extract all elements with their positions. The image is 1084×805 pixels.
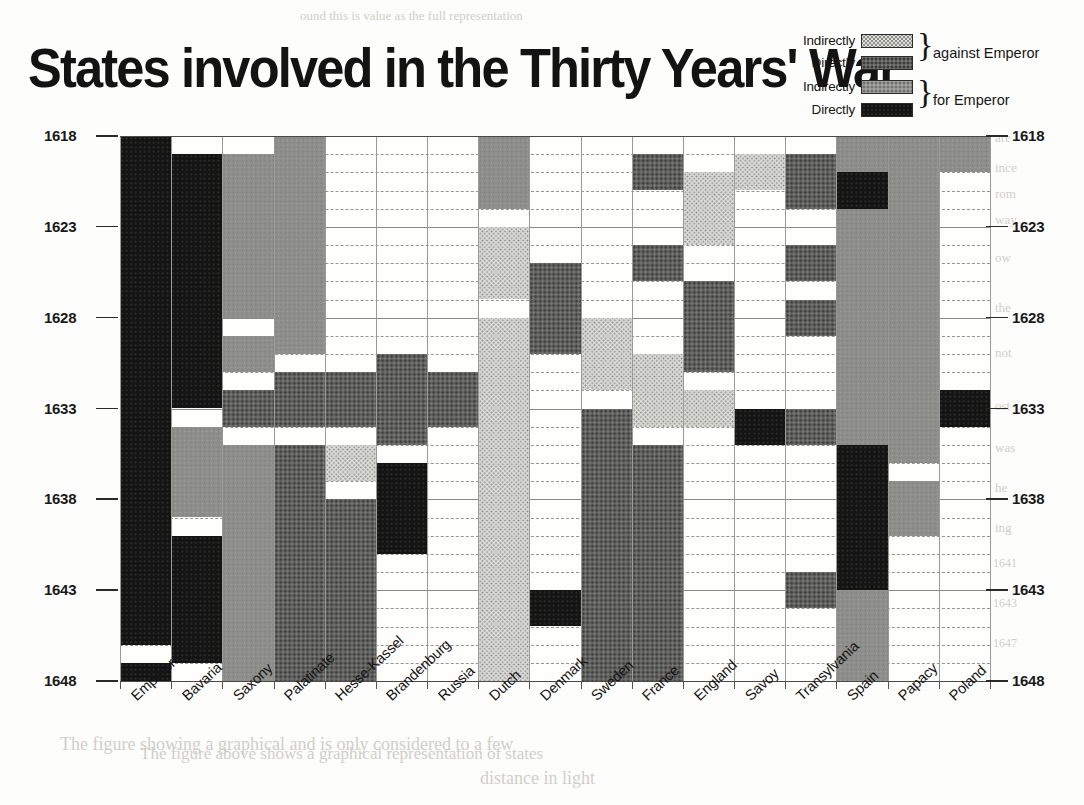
- heatmap-cell: [836, 445, 888, 590]
- legend-swatch-indirectly-for-icon: [861, 80, 913, 94]
- page-title: States involved in the Thirty Years' War: [28, 36, 897, 100]
- y-axis-tick-left: [96, 226, 118, 228]
- heatmap-cell: [683, 172, 735, 245]
- x-axis-tick: [734, 682, 735, 689]
- heatmap-cell: [171, 154, 223, 408]
- heatmap-cell: [785, 245, 837, 281]
- x-axis-tick: [171, 682, 172, 689]
- y-axis-tick-label-left: 1623: [44, 218, 76, 235]
- column-separator: [376, 136, 377, 681]
- column-separator: [274, 136, 275, 681]
- heatmap-cell: [222, 445, 274, 681]
- heatmap-cell: [734, 409, 786, 445]
- legend-swatch-indirectly-against-icon: [861, 34, 913, 48]
- y-axis-tick-label-right: 1643: [1012, 581, 1044, 598]
- column-separator: [325, 136, 326, 681]
- heatmap-cell: [888, 136, 940, 463]
- scan-bleed-text: are: [995, 130, 1011, 146]
- axis-line-top: [120, 136, 990, 137]
- x-axis-tick: [785, 682, 786, 689]
- x-axis-tick: [274, 682, 275, 689]
- heatmap-cell: [529, 263, 581, 354]
- heatmap-cell: [939, 390, 991, 426]
- column-separator: [785, 136, 786, 681]
- scan-bleed-text: he: [995, 480, 1007, 496]
- heatmap-cell: [478, 136, 530, 209]
- scan-bleed-text: 1641: [993, 556, 1017, 571]
- scan-bleed-text: ound this is value as the full represent…: [300, 8, 523, 24]
- column-separator: [478, 136, 479, 681]
- scan-bleed-text: the: [995, 300, 1011, 316]
- y-axis-tick-label-left: 1633: [44, 400, 76, 417]
- heatmap-cell: [785, 409, 837, 445]
- scan-bleed-text: ost: [995, 398, 1010, 414]
- legend-label: Directly: [793, 55, 855, 70]
- y-axis-tick-left: [96, 680, 118, 682]
- column-separator: [683, 136, 684, 681]
- x-axis-tick: [632, 682, 633, 689]
- y-axis-tick-right: [986, 317, 1008, 319]
- heatmap-cell: [785, 300, 837, 336]
- legend-label: Indirectly: [793, 33, 855, 48]
- heatmap-cell: [427, 372, 479, 427]
- y-axis-tick-right: [986, 498, 1008, 500]
- legend-row-indirectly-against: Indirectly: [793, 31, 913, 50]
- scan-bleed-text: ing: [995, 520, 1012, 536]
- legend-group-for-label: for Emperor: [933, 92, 1010, 108]
- column-separator: [888, 136, 889, 681]
- heatmap-cell: [581, 409, 633, 682]
- x-axis-tick: [836, 682, 837, 689]
- column-separator: [632, 136, 633, 681]
- legend-row-directly-for: Directly: [793, 100, 913, 119]
- x-axis-tick: [990, 682, 991, 689]
- brace-for-icon: }: [917, 75, 933, 109]
- scan-bleed-text: distance in light: [480, 768, 595, 789]
- heatmap-cell: [171, 536, 223, 663]
- y-axis-tick-label-right: 1633: [1012, 400, 1044, 417]
- heatmap-cell: [632, 354, 684, 427]
- heatmap-cell: [632, 245, 684, 281]
- scan-bleed-text: rom: [995, 186, 1016, 202]
- scan-bleed-text: 1647: [993, 636, 1017, 651]
- y-axis-tick-label-right: 1618: [1012, 127, 1044, 144]
- heatmap-cell: [683, 390, 735, 426]
- heatmap-cell: [785, 572, 837, 608]
- y-axis-tick-label-left: 1648: [44, 672, 76, 689]
- column-separator: [427, 136, 428, 681]
- heatmap-cell: [581, 318, 633, 391]
- x-axis-tick: [478, 682, 479, 689]
- x-axis-tick: [939, 682, 940, 689]
- y-axis-tick-label-left: 1618: [44, 127, 76, 144]
- scan-bleed-text: was: [995, 440, 1015, 456]
- heatmap-cell: [529, 590, 581, 626]
- x-axis-tick: [376, 682, 377, 689]
- column-separator: [529, 136, 530, 681]
- heatmap-cell: [274, 136, 326, 354]
- column-separator: [734, 136, 735, 681]
- column-separator: [836, 136, 837, 681]
- heatmap-cell: [632, 154, 684, 190]
- column-separator: [581, 136, 582, 681]
- heatmap-cell: [836, 136, 888, 681]
- y-axis-tick-right: [986, 408, 1008, 410]
- scan-bleed-text: ow: [995, 250, 1011, 266]
- heatmap-cell: [888, 481, 940, 536]
- scan-bleed-text: ince: [995, 160, 1017, 176]
- legend-row-directly-against: Directly: [793, 53, 913, 72]
- y-axis-tick-label-right: 1628: [1012, 309, 1044, 326]
- y-axis-tick-right: [986, 226, 1008, 228]
- y-axis-tick-left: [96, 498, 118, 500]
- legend-label: Indirectly: [793, 79, 855, 94]
- heatmap-cell: [325, 445, 377, 481]
- heatmap-cell: [274, 445, 326, 681]
- heatmap-cell: [734, 154, 786, 190]
- heatmap-cell: [222, 390, 274, 426]
- heatmap-cell: [478, 227, 530, 300]
- y-axis-tick-right: [986, 135, 1008, 137]
- heatmap-cell: [376, 463, 428, 554]
- x-axis-tick: [683, 682, 684, 689]
- heatmap-cell: [222, 154, 274, 318]
- y-axis-tick-left: [96, 589, 118, 591]
- heatmap-cell: [171, 427, 223, 518]
- plot-area: [120, 136, 990, 681]
